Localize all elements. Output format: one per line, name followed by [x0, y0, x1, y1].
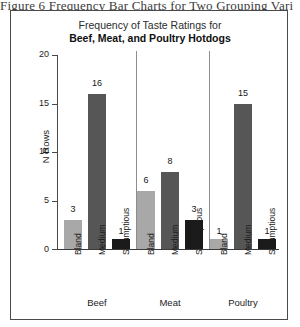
y-tick-10 — [52, 152, 58, 153]
y-tick-20 — [52, 55, 58, 56]
y-tick-0 — [52, 249, 58, 250]
y-tick-15 — [52, 104, 58, 105]
category-label-meat-bland: Bland — [146, 195, 156, 255]
plot-area: N Rows 0 5 10 15 20 3 16 1 Bland Medium … — [39, 45, 279, 317]
category-label-poultry-bland: Bland — [219, 195, 229, 255]
y-tick-label-10: 10 — [31, 147, 49, 156]
group-label-poultry: Poultry — [208, 297, 278, 308]
y-tick-label-20: 20 — [31, 50, 49, 59]
group-label-beef: Beef — [62, 297, 132, 308]
y-tick-label-15: 15 — [31, 99, 49, 108]
bar-value-meat-bland: 6 — [134, 176, 158, 185]
bar-value-poultry-medium: 15 — [231, 89, 255, 98]
category-label-beef-bland: Bland — [73, 195, 83, 255]
chart-title-line-1: Frequency of Taste Ratings for — [11, 19, 289, 32]
chart-title-line-2: Beef, Meat, and Poultry Hotdogs — [11, 32, 289, 45]
y-tick-label-5: 5 — [31, 196, 49, 205]
y-tick-5 — [52, 201, 58, 202]
figure-frame: Frequency of Taste Ratings for Beef, Mea… — [10, 10, 288, 320]
category-label-beef-medium: Medium — [97, 195, 107, 255]
panel-separator-2 — [209, 51, 210, 249]
group-label-meat: Meat — [135, 297, 205, 308]
category-label-poultry-scrumptious: Scrumptious — [267, 195, 277, 255]
bar-value-meat-medium: 8 — [158, 157, 182, 166]
category-label-meat-scrumptious: Scrumptious — [194, 195, 204, 255]
y-tick-label-0: 0 — [31, 245, 49, 254]
category-label-poultry-medium: Medium — [243, 195, 253, 255]
category-label-beef-scrumptious: Scrumptious — [121, 195, 131, 255]
category-label-meat-medium: Medium — [170, 195, 180, 255]
bar-value-beef-medium: 16 — [85, 79, 109, 88]
chart-title: Frequency of Taste Ratings for Beef, Mea… — [11, 19, 289, 45]
figure-caption: Figure 6 Frequency Bar Charts for Two Gr… — [0, 0, 300, 10]
